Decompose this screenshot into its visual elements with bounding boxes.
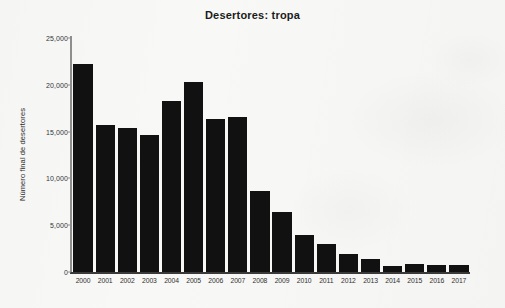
y-axis-tick-mark — [68, 272, 71, 273]
bar[interactable] — [449, 265, 468, 272]
x-axis-tick-label: 2004 — [160, 277, 182, 284]
plot-area — [72, 38, 470, 272]
x-axis-tick-label: 2017 — [448, 277, 470, 284]
bar[interactable] — [228, 117, 247, 272]
bar[interactable] — [295, 235, 314, 272]
bar[interactable] — [118, 128, 137, 272]
x-axis-tick-label: 2014 — [382, 277, 404, 284]
bar[interactable] — [250, 191, 269, 272]
bar[interactable] — [184, 82, 203, 272]
bar[interactable] — [339, 254, 358, 272]
y-axis-tick-label: 0 — [34, 269, 68, 276]
bar[interactable] — [96, 125, 115, 272]
x-axis-tick-label: 2016 — [426, 277, 448, 284]
y-axis-tick-mark — [68, 38, 71, 39]
x-axis-tick-label: 2005 — [183, 277, 205, 284]
x-axis-tick-label: 2009 — [271, 277, 293, 284]
x-axis-tick-label: 2012 — [337, 277, 359, 284]
x-axis-tick-label: 2007 — [227, 277, 249, 284]
y-axis-tick-label: 10,000 — [34, 175, 68, 182]
x-axis-tick-label: 2002 — [116, 277, 138, 284]
y-axis-tick-label: 25,000 — [34, 35, 68, 42]
bar[interactable] — [317, 244, 336, 272]
bar[interactable] — [383, 266, 402, 272]
x-axis-tick-label: 2001 — [94, 277, 116, 284]
y-axis-tick-mark — [68, 225, 71, 226]
y-axis-tick-labels: 05,00010,00015,00020,00025,000 — [30, 0, 68, 308]
x-axis-line — [70, 272, 470, 274]
y-axis-tick-mark — [68, 131, 71, 132]
chart-title: Desertores: tropa — [0, 9, 505, 21]
x-axis-tick-label: 2000 — [72, 277, 94, 284]
bar[interactable] — [427, 265, 446, 272]
y-axis-tick-label: 20,000 — [34, 81, 68, 88]
x-axis-tick-label: 2010 — [293, 277, 315, 284]
x-axis-tick-label: 2006 — [205, 277, 227, 284]
x-axis-tick-label: 2013 — [359, 277, 381, 284]
y-axis-tick-label: 5,000 — [34, 222, 68, 229]
bar[interactable] — [272, 212, 291, 272]
y-axis-tick-mark — [68, 178, 71, 179]
bar[interactable] — [206, 119, 225, 272]
bar[interactable] — [361, 259, 380, 272]
y-axis-tick-mark — [68, 84, 71, 85]
bar[interactable] — [73, 64, 92, 272]
bar[interactable] — [140, 135, 159, 272]
chart-page: Desertores: tropa Número final de desert… — [0, 0, 505, 308]
x-axis-tick-label: 2011 — [315, 277, 337, 284]
bar[interactable] — [405, 264, 424, 272]
y-axis-tick-label: 15,000 — [34, 128, 68, 135]
x-axis-tick-label: 2008 — [249, 277, 271, 284]
x-axis-tick-label: 2015 — [404, 277, 426, 284]
bar[interactable] — [162, 101, 181, 272]
x-axis-tick-label: 2003 — [138, 277, 160, 284]
